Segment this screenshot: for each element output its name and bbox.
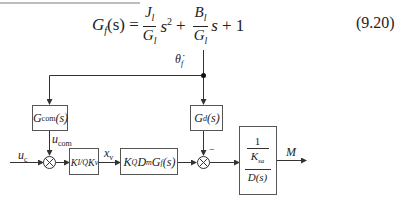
gcom-block: Gcom(s) bbox=[33, 106, 68, 131]
output-block-numerator: 1 bbox=[247, 135, 269, 149]
minus-sign-label: − bbox=[209, 144, 215, 155]
uc-label: uc bbox=[18, 148, 28, 164]
xv-label: xv bbox=[104, 146, 113, 162]
ucom-label: ucom bbox=[52, 132, 72, 148]
theta-dot-label: θ̇f bbox=[175, 52, 183, 68]
output-block-mid: Ksa bbox=[245, 149, 271, 169]
gd-block: Gd(s) bbox=[191, 106, 223, 131]
output-transfer-block: 1 Ksa D(s) bbox=[239, 126, 276, 194]
output-m-label: M bbox=[286, 145, 296, 160]
plant-block: KQDmGf(s) bbox=[121, 149, 178, 175]
block-diagram-lines bbox=[0, 0, 398, 204]
junction-dot bbox=[201, 73, 206, 78]
gain-block: KI/QKv bbox=[70, 149, 99, 175]
output-block-denominator: D(s) bbox=[248, 170, 268, 185]
